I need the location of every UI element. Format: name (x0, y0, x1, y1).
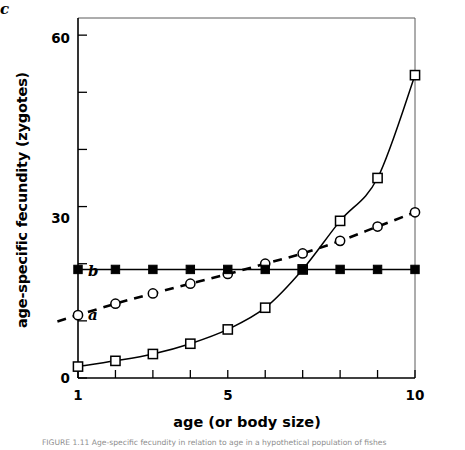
data-point-c-9 (373, 173, 382, 182)
data-point-a-7 (298, 249, 307, 258)
data-point-b-5 (224, 265, 232, 273)
data-point-c-10 (410, 71, 419, 80)
data-point-b-2 (111, 265, 119, 273)
data-point-a-4 (186, 279, 195, 288)
data-point-b-8 (336, 265, 344, 273)
series-b (74, 265, 419, 273)
data-point-c-8 (336, 216, 345, 225)
data-point-b-7 (298, 265, 306, 273)
series-a (57, 208, 419, 322)
axis-ticks (78, 35, 415, 378)
data-point-c-2 (111, 356, 120, 365)
figure-container: age-specific fecundity (zygotes) age (or… (0, 0, 465, 450)
data-point-c-6 (261, 303, 270, 312)
figure-caption: FIGURE 1.11 Age-specific fecundity in re… (42, 438, 462, 447)
data-point-c-3 (148, 349, 157, 358)
series-c (73, 71, 419, 372)
data-point-c-4 (186, 339, 195, 348)
data-point-b-10 (411, 265, 419, 273)
data-point-b-3 (149, 265, 157, 273)
data-point-a-10 (410, 208, 419, 217)
series-line-c (78, 75, 415, 366)
data-point-a-3 (148, 289, 157, 298)
data-point-c-1 (73, 362, 82, 371)
data-point-b-6 (261, 265, 269, 273)
plot-area (0, 0, 465, 450)
data-point-b-4 (186, 265, 194, 273)
data-point-a-9 (373, 222, 382, 231)
data-point-a-2 (111, 299, 120, 308)
data-point-b-1 (74, 265, 82, 273)
series-layer (57, 71, 419, 372)
data-point-a-1 (73, 311, 82, 320)
data-point-c-5 (223, 325, 232, 334)
data-point-b-9 (373, 265, 381, 273)
data-point-a-8 (336, 236, 345, 245)
